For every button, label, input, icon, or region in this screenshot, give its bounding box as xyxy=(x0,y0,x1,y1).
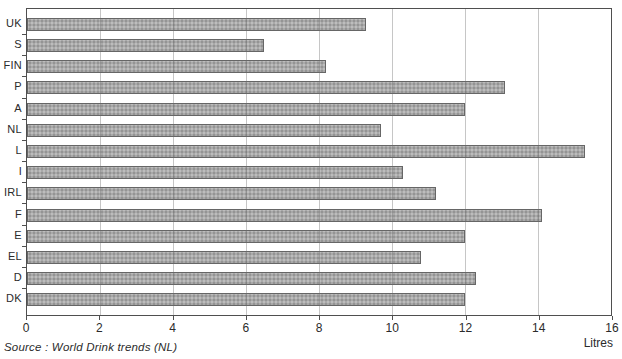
category-label-F: F xyxy=(0,208,22,221)
bar-IRL xyxy=(27,187,436,200)
category-label-IRL: IRL xyxy=(0,186,22,199)
y-axis-tick xyxy=(22,34,26,35)
y-axis-tick xyxy=(22,267,26,268)
bar-I xyxy=(27,166,403,179)
x-axis-tickmark-6 xyxy=(246,316,247,320)
x-axis-ticklabel-0: 0 xyxy=(23,321,30,335)
y-axis-tick xyxy=(22,55,26,56)
category-label-NL: NL xyxy=(0,123,22,136)
x-axis-tickmark-10 xyxy=(392,316,393,320)
y-axis-tick xyxy=(22,98,26,99)
x-axis-ticklabel-12: 12 xyxy=(459,321,472,335)
y-axis-tick xyxy=(22,119,26,120)
x-axis-tickmark-4 xyxy=(173,316,174,320)
x-axis-tickmark-12 xyxy=(466,316,467,320)
bar-P xyxy=(27,81,505,94)
y-axis-tick xyxy=(22,161,26,162)
x-axis-tickmark-14 xyxy=(539,316,540,320)
category-label-L: L xyxy=(0,144,22,157)
gridline-x8 xyxy=(319,9,320,315)
x-axis-tickmark-8 xyxy=(319,316,320,320)
category-label-EL: EL xyxy=(0,250,22,263)
category-label-D: D xyxy=(0,271,22,284)
bar-D xyxy=(27,272,476,285)
y-axis-tick xyxy=(22,140,26,141)
bar-UK xyxy=(27,18,366,31)
x-axis-title: Litres xyxy=(584,336,613,350)
x-axis-ticklabel-14: 14 xyxy=(532,321,545,335)
y-axis-tick xyxy=(22,246,26,247)
category-label-UK: UK xyxy=(0,17,22,30)
x-axis-ticklabel-6: 6 xyxy=(242,321,249,335)
bar-EL xyxy=(27,251,421,264)
gridline-x10 xyxy=(392,9,393,315)
bar-L xyxy=(27,145,585,158)
gridline-x4 xyxy=(173,9,174,315)
gridline-x12 xyxy=(465,9,466,315)
y-axis-tick xyxy=(22,182,26,183)
x-axis-ticklabel-10: 10 xyxy=(386,321,399,335)
category-label-A: A xyxy=(0,102,22,115)
x-axis-ticklabel-16: 16 xyxy=(605,321,618,335)
category-label-DK: DK xyxy=(0,292,22,305)
gridline-x6 xyxy=(246,9,247,315)
category-label-S: S xyxy=(0,38,22,51)
source-caption: Source : World Drink trends (NL) xyxy=(4,341,177,353)
x-axis-tickmark-16 xyxy=(612,316,613,320)
plot-area xyxy=(26,8,612,316)
x-axis-ticklabel-2: 2 xyxy=(96,321,103,335)
gridline-x2 xyxy=(100,9,101,315)
x-axis-tickmark-2 xyxy=(99,316,100,320)
category-label-I: I xyxy=(0,165,22,178)
gridline-x14 xyxy=(538,9,539,315)
category-label-P: P xyxy=(0,80,22,93)
category-label-E: E xyxy=(0,229,22,242)
x-axis-ticklabel-4: 4 xyxy=(169,321,176,335)
x-axis-tickmark-0 xyxy=(26,316,27,320)
y-axis-tick xyxy=(22,225,26,226)
bar-chart: Litres Source : World Drink trends (NL) … xyxy=(0,0,622,359)
y-axis-tick xyxy=(22,288,26,289)
y-axis-tick xyxy=(22,76,26,77)
x-axis-ticklabel-8: 8 xyxy=(316,321,323,335)
bar-S xyxy=(27,39,264,52)
category-label-FIN: FIN xyxy=(0,59,22,72)
bar-FIN xyxy=(27,60,326,73)
y-axis-tick xyxy=(22,203,26,204)
bar-NL xyxy=(27,124,381,137)
